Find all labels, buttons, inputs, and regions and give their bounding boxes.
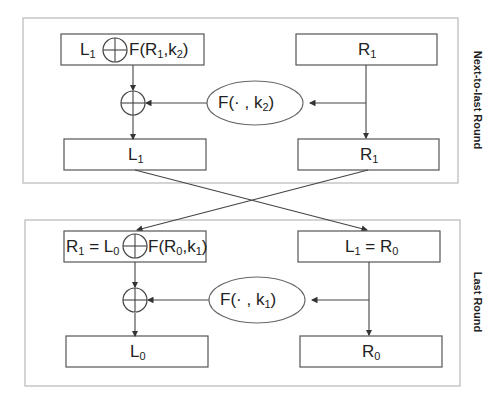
round1-side-label: Next-to-last Round [472,51,484,149]
round2-top-right-label: L1 = R0 [345,238,398,257]
round1-function-label: F(· , k2) [218,94,274,113]
round2-side-label: Last Round [472,272,484,333]
round2-xor-icon [123,288,147,312]
round2-bottom-left-label: L0 [130,343,146,362]
round1-xor-icon [121,91,145,115]
round1-top-left-prefix: L1 [80,41,96,60]
round1-top-right-label: R1 [358,41,376,60]
round1-top-left-suffix: F(R1,k2) [129,41,188,60]
round2-inline-xor-icon [123,234,147,258]
round2-top-left-prefix: R1 = L0 [66,238,119,257]
round2-bottom-right-label: R0 [362,343,380,362]
round1-inline-xor-icon [103,38,127,62]
round2-top-left-suffix: F(R0,k1) [148,238,207,257]
feistel-diagram: Next-to-last Round Last Round [0,0,498,403]
round1-bottom-left-label: L1 [128,146,144,165]
round1-bottom-right-label: R1 [360,146,378,165]
round2-function-label: F(· , k1) [220,291,276,310]
